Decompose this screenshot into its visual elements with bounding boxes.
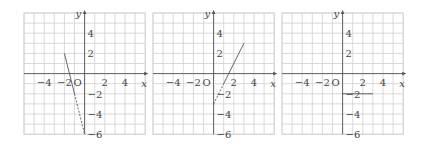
- y-tick-label: 2: [346, 48, 352, 59]
- coordinate-grid: xyO−4−22442−2−4−6: [0, 0, 150, 151]
- y-axis-label: y: [75, 8, 82, 19]
- x-tick-label: −2: [315, 77, 330, 88]
- y-tick-label: −6: [217, 129, 232, 140]
- y-axis-arrow-icon: [83, 10, 87, 14]
- y-axis-arrow-icon: [341, 10, 345, 14]
- x-tick-label: −4: [295, 77, 310, 88]
- y-tick-label: −6: [346, 129, 361, 140]
- y-tick-label: −2: [88, 89, 103, 100]
- y-tick-label: −6: [88, 129, 103, 140]
- y-tick-label: 4: [217, 28, 223, 39]
- origin-label: O: [332, 77, 340, 88]
- y-tick-label: 4: [88, 28, 94, 39]
- x-tick-label: −2: [186, 77, 201, 88]
- coordinate-grid: xyO−4−22442−2−4−6: [129, 0, 279, 151]
- y-tick-label: −4: [217, 109, 232, 120]
- graph-panel-1: xyO−4−22442−2−4−6: [0, 0, 140, 151]
- coordinate-grid: xyO−4−22442−2−4−6: [258, 0, 408, 151]
- x-axis-label: x: [399, 78, 405, 89]
- x-axis-arrow-icon: [402, 72, 406, 76]
- graph-panel-3: xyO−4−22442−2−4−6: [258, 0, 398, 151]
- x-tick-label: −4: [37, 77, 52, 88]
- x-tick-label: 4: [251, 77, 257, 88]
- y-tick-label: 4: [346, 28, 352, 39]
- x-tick-label: −2: [57, 77, 72, 88]
- x-tick-label: 2: [102, 77, 108, 88]
- x-tick-label: −4: [166, 77, 181, 88]
- origin-label: O: [74, 77, 82, 88]
- y-axis-arrow-icon: [212, 10, 216, 14]
- x-tick-label: 2: [360, 77, 366, 88]
- y-tick-label: 2: [88, 48, 94, 59]
- origin-label: O: [203, 77, 211, 88]
- y-tick-label: −4: [346, 109, 361, 120]
- x-tick-label: 2: [231, 77, 237, 88]
- y-axis-label: y: [204, 8, 211, 19]
- x-tick-label: 4: [122, 77, 128, 88]
- x-tick-label: 4: [380, 77, 386, 88]
- y-tick-label: −2: [346, 89, 361, 100]
- y-tick-label: 2: [217, 48, 223, 59]
- y-tick-label: −4: [88, 109, 103, 120]
- graph-panel-2: xyO−4−22442−2−4−6: [129, 0, 269, 151]
- y-axis-label: y: [333, 8, 340, 19]
